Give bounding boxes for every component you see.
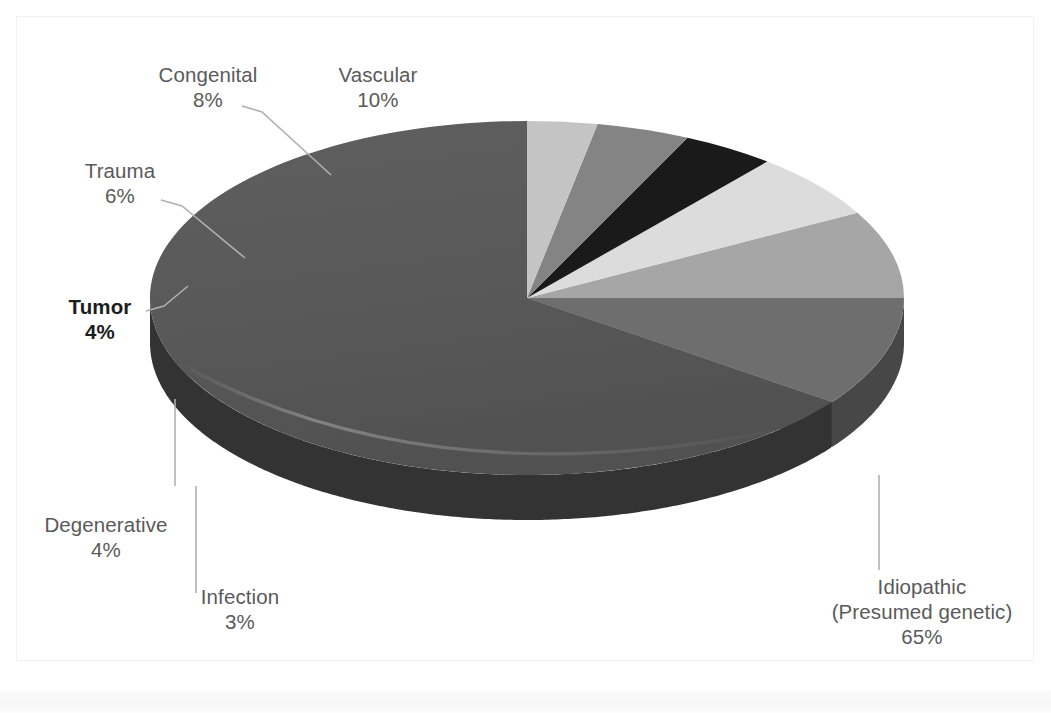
slice-label-infection-name: Infection	[201, 585, 279, 608]
slice-label-infection: Infection 3%	[178, 584, 302, 634]
slice-label-vascular-percent: 10%	[318, 87, 438, 112]
slice-label-trauma-name: Trauma	[85, 159, 155, 182]
slice-label-trauma-percent: 6%	[60, 183, 180, 208]
slice-label-degenerative-percent: 4%	[22, 537, 190, 562]
slice-label-idiopathic-name: Idiopathic	[878, 575, 967, 598]
slice-label-vascular: Vascular 10%	[318, 62, 438, 112]
slice-label-degenerative-name: Degenerative	[44, 513, 167, 536]
pie-chart-figure: Congenital 8% Vascular 10% Trauma 6% Tum…	[0, 0, 1051, 713]
slice-label-idiopathic-percent: 65%	[806, 624, 1038, 649]
slice-label-tumor: Tumor 4%	[44, 294, 156, 344]
slice-label-congenital: Congenital 8%	[140, 62, 276, 112]
slice-label-congenital-percent: 8%	[140, 87, 276, 112]
slice-label-degenerative: Degenerative 4%	[22, 512, 190, 562]
pie-body	[150, 121, 904, 520]
slice-label-tumor-name: Tumor	[69, 295, 132, 318]
slice-label-idiopathic: Idiopathic (Presumed genetic) 65%	[806, 574, 1038, 649]
slice-label-idiopathic-subtitle: (Presumed genetic)	[806, 599, 1038, 624]
slice-label-tumor-percent: 4%	[44, 319, 156, 344]
slice-label-vascular-name: Vascular	[338, 63, 417, 86]
slice-label-congenital-name: Congenital	[158, 63, 257, 86]
slice-label-trauma: Trauma 6%	[60, 158, 180, 208]
slice-label-infection-percent: 3%	[178, 609, 302, 634]
